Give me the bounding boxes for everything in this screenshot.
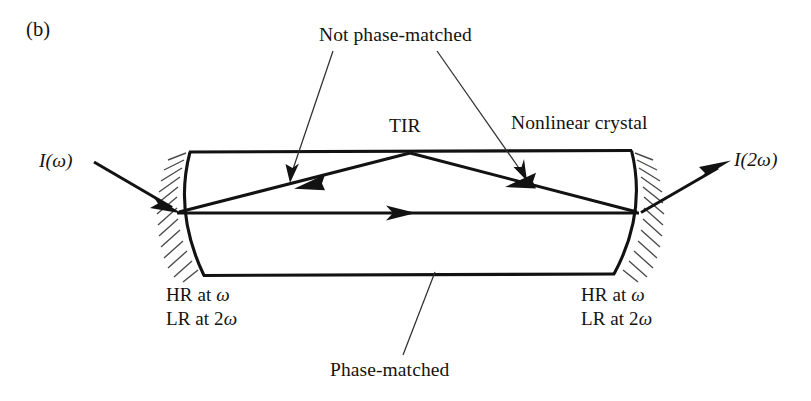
phase-matched-beam <box>177 206 639 221</box>
input-beam-expression: I(ω) <box>39 150 73 171</box>
label-phase-matched: Phase-matched <box>330 358 449 383</box>
label-not-phase-matched: Not phase-matched <box>319 23 472 48</box>
left-mirror-hatching <box>157 153 198 282</box>
panel-letter: (b) <box>26 16 50 42</box>
not-pm-leader-right-line <box>437 51 521 171</box>
omega-symbol: ω <box>639 308 653 329</box>
label-input-intensity: I(ω) <box>39 149 73 174</box>
phase-matched-leader <box>403 272 435 355</box>
input-beam-arrow <box>94 162 182 214</box>
figure-container: (b) Not phase-matched TIR Nonlinear crys… <box>0 0 811 401</box>
right-mirror-hatching <box>623 153 664 282</box>
omega-symbol: ω <box>216 284 230 305</box>
tir-beam-left-arm <box>179 153 410 212</box>
tir-bounce-beam <box>179 153 637 212</box>
right-coating-line-1: HR at ω <box>581 283 652 307</box>
label-tir: TIR <box>389 114 421 139</box>
optics-diagram-svg <box>0 0 811 401</box>
input-beam-arrowhead <box>150 196 182 214</box>
not-pm-leader-left-arrowhead <box>286 164 300 184</box>
left-coating-line-2: LR at 2ω <box>166 307 237 331</box>
left-coating-line-1: HR at ω <box>166 283 237 307</box>
label-nonlinear-crystal: Nonlinear crystal <box>511 111 648 136</box>
output-beam-expression: I(2ω) <box>734 149 778 170</box>
output-beam-arrowhead <box>699 161 731 181</box>
label-right-mirror-coating: HR at ω LR at 2ω <box>581 283 652 332</box>
not-pm-leader-left-line <box>292 51 333 172</box>
omega-symbol: ω <box>631 284 645 305</box>
phase-matched-leader-line <box>403 272 435 355</box>
omega-symbol: ω <box>224 308 238 329</box>
label-output-intensity: I(2ω) <box>734 148 778 173</box>
tir-beam-right-arrowhead <box>505 173 536 189</box>
crystal-bottom-edge <box>203 274 615 276</box>
right-coating-line-2: LR at 2ω <box>581 307 652 331</box>
label-left-mirror-coating: HR at ω LR at 2ω <box>166 283 237 332</box>
